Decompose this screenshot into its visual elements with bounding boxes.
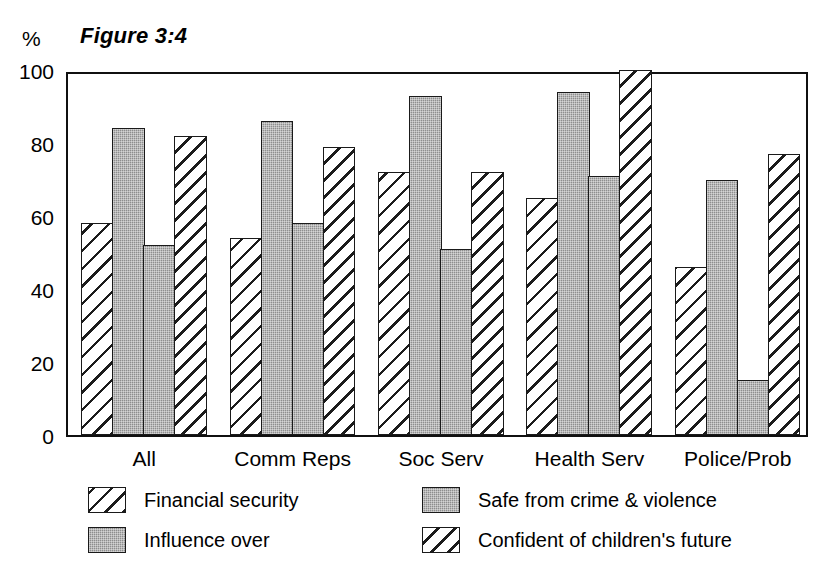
y-tick-label: 20 bbox=[31, 353, 54, 374]
bar bbox=[409, 96, 442, 435]
bar-group-comm-reps bbox=[230, 74, 360, 435]
y-tick-label: 80 bbox=[31, 134, 54, 155]
legend-label: Confident of children's future bbox=[478, 529, 732, 551]
y-tick-0: 0 bbox=[8, 426, 54, 447]
bar bbox=[706, 180, 739, 436]
legend-item: Confident of children's future bbox=[422, 527, 732, 553]
bar bbox=[440, 249, 473, 435]
legend-label: Safe from crime & violence bbox=[478, 489, 717, 511]
bar bbox=[619, 70, 652, 435]
y-tick-label: 100 bbox=[19, 61, 54, 82]
bar bbox=[230, 238, 263, 435]
plot-area bbox=[66, 72, 808, 437]
chart-legend: Financial securityInfluence overSafe fro… bbox=[66, 487, 808, 561]
bar bbox=[768, 154, 801, 435]
y-tick-40: 40 bbox=[8, 280, 54, 301]
legend-swatch-icon bbox=[88, 487, 126, 513]
legend-swatch-icon bbox=[422, 527, 460, 553]
legend-swatch-icon bbox=[88, 527, 126, 553]
figure-root: % Figure 3:4 100806040200 AllComm RepsSo… bbox=[0, 0, 817, 561]
bar-group-all bbox=[81, 74, 211, 435]
bar bbox=[174, 136, 207, 435]
bar bbox=[112, 128, 145, 435]
y-tick-80: 80 bbox=[8, 134, 54, 155]
legend-label: Financial security bbox=[144, 489, 299, 511]
y-tick-20: 20 bbox=[8, 353, 54, 374]
bar bbox=[588, 176, 621, 435]
x-tick-label-police-prob: Police/Prob bbox=[648, 448, 817, 470]
bar-group-health-serv bbox=[526, 74, 656, 435]
y-axis-unit-label: % bbox=[22, 28, 41, 49]
legend-item: Influence over bbox=[88, 527, 270, 553]
legend-label: Influence over bbox=[144, 529, 270, 551]
figure-title: Figure 3:4 bbox=[80, 24, 187, 48]
legend-item: Financial security bbox=[88, 487, 299, 513]
bar bbox=[675, 267, 708, 435]
bar bbox=[143, 245, 176, 435]
bar-group-soc-serv bbox=[378, 74, 508, 435]
bar bbox=[81, 223, 114, 435]
y-tick-label: 60 bbox=[31, 207, 54, 228]
bar bbox=[323, 147, 356, 435]
legend-item: Safe from crime & violence bbox=[422, 487, 717, 513]
bar bbox=[292, 223, 325, 435]
legend-swatch-icon bbox=[422, 487, 460, 513]
bar bbox=[261, 121, 294, 435]
bar bbox=[471, 172, 504, 435]
bar bbox=[378, 172, 411, 435]
bar bbox=[526, 198, 559, 435]
bar-group-police-prob bbox=[675, 74, 805, 435]
y-tick-label: 40 bbox=[31, 280, 54, 301]
bars-container bbox=[68, 74, 806, 435]
bar bbox=[557, 92, 590, 435]
y-tick-label: 0 bbox=[42, 426, 54, 447]
bar bbox=[737, 380, 770, 435]
y-tick-60: 60 bbox=[8, 207, 54, 228]
y-tick-100: 100 bbox=[8, 61, 54, 82]
